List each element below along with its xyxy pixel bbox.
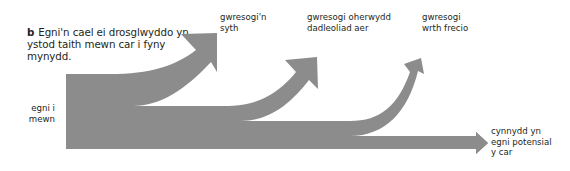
label-energy-in: egni i mewn [23,103,55,124]
label-heat-braking: gwresogi wrth frecio [422,12,468,33]
label-heat-straight: gwresogi'n syth [220,12,267,33]
label-potential-energy: cynnydd yn egni potensial y car [491,126,552,158]
sankey-diagram [0,0,570,171]
flow-branch-heat-straight [66,33,217,106]
label-heat-air: gwresogi oherwydd dadleoliad aer [307,12,391,33]
